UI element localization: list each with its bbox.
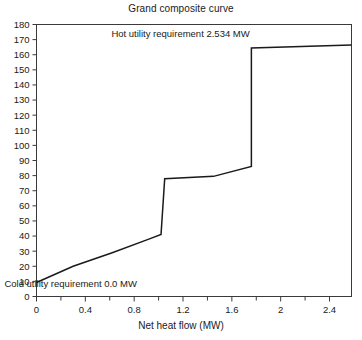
y-tick-label: 170 <box>14 34 30 45</box>
y-tick-label: 0 <box>24 291 29 302</box>
y-tick-label: 160 <box>14 49 30 60</box>
x-tick-label: 0 <box>34 304 39 315</box>
plot-frame <box>37 25 352 297</box>
y-tick-label: 180 <box>14 19 30 30</box>
x-axis-ticks: 00.40.81.21.622.4 <box>34 297 336 315</box>
chart-canvas: 0102030405060708090100110120130140150160… <box>0 0 362 340</box>
y-tick-label: 90 <box>19 155 30 166</box>
y-tick-label: 50 <box>19 215 30 226</box>
hot-utility-annotation: Hot utility requirement 2.534 MW <box>111 28 249 39</box>
x-axis-label: Net heat flow (MW) <box>0 320 362 331</box>
y-tick-label: 100 <box>14 140 30 151</box>
x-tick-label: 0.4 <box>79 304 92 315</box>
y-tick-label: 130 <box>14 94 30 105</box>
data-series-line <box>37 45 352 283</box>
x-tick-label: 2.4 <box>323 304 336 315</box>
chart-annotations: Hot utility requirement 2.534 MWCold uti… <box>4 28 249 290</box>
y-axis-ticks: 0102030405060708090100110120130140150160… <box>14 19 37 302</box>
x-tick-label: 1.2 <box>176 304 189 315</box>
x-tick-label: 1.6 <box>225 304 238 315</box>
y-tick-label: 70 <box>19 185 30 196</box>
y-tick-label: 20 <box>19 261 30 272</box>
y-tick-label: 110 <box>14 125 29 136</box>
y-tick-label: 40 <box>19 230 30 241</box>
y-tick-label: 120 <box>14 110 30 121</box>
y-tick-label: 60 <box>19 200 30 211</box>
cold-utility-annotation: Cold utility requirement 0.0 MW <box>4 278 137 289</box>
y-tick-label: 150 <box>14 64 30 75</box>
x-tick-label: 0.8 <box>128 304 141 315</box>
y-tick-label: 80 <box>19 170 30 181</box>
y-tick-label: 30 <box>19 246 30 257</box>
grand-composite-curve-chart: Grand composite curve 010203040506070809… <box>0 0 362 340</box>
x-tick-label: 2 <box>278 304 283 315</box>
y-tick-label: 140 <box>14 79 30 90</box>
